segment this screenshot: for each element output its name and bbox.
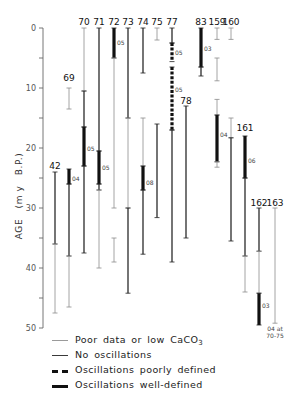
site-column-70: 7005 bbox=[78, 17, 95, 253]
legend-label: No oscillations bbox=[75, 349, 152, 360]
site-label: 161 bbox=[236, 123, 253, 133]
period-label: 05 bbox=[175, 49, 183, 56]
site-label: 42 bbox=[49, 161, 60, 171]
site-column-42: 42 bbox=[49, 161, 60, 313]
period-label: 06 bbox=[248, 157, 256, 164]
site-column-159: 15904 bbox=[208, 17, 227, 167]
y-tick-label: 30 bbox=[26, 204, 36, 213]
period-label: 05 bbox=[117, 39, 125, 46]
y-tick-label: 40 bbox=[26, 264, 36, 273]
legend-swatch-medium-line bbox=[52, 355, 68, 356]
site-column-77: 770505 bbox=[166, 17, 183, 262]
site-column-162: 16203 bbox=[250, 198, 269, 325]
site-label: 75 bbox=[151, 17, 162, 27]
site-column-69: 6904 bbox=[63, 73, 80, 307]
period-label: 04 bbox=[220, 131, 228, 138]
site-column-163: 16304 at70-75 bbox=[266, 198, 284, 339]
site-column-78: 78 bbox=[180, 96, 192, 238]
site-label: 78 bbox=[180, 96, 192, 106]
site-columns: 4269047005710572057374087577050578830315… bbox=[49, 17, 284, 339]
site-label: 69 bbox=[63, 73, 75, 83]
legend-swatch-thin-line bbox=[52, 340, 68, 341]
legend-swatch-dashed-line bbox=[52, 370, 68, 373]
period-label: 04 bbox=[72, 175, 80, 182]
period-label: 08 bbox=[146, 179, 154, 186]
site-label: 160 bbox=[222, 17, 239, 27]
site-label: 70 bbox=[78, 17, 90, 27]
site-label: 72 bbox=[108, 17, 119, 27]
period-label: 05 bbox=[175, 86, 183, 93]
y-tick-label: 20 bbox=[26, 144, 36, 153]
period-label: 03 bbox=[204, 45, 212, 52]
legend-label: Oscillations well-defined bbox=[75, 379, 203, 390]
site-label: 77 bbox=[166, 17, 177, 27]
y-tick-label: 10 bbox=[26, 84, 36, 93]
site-column-73: 73 bbox=[122, 17, 133, 293]
period-label: 05 bbox=[102, 164, 110, 171]
legend-label: Poor data or low CaCO3 bbox=[75, 334, 203, 347]
y-tick-label: 50 bbox=[26, 324, 36, 333]
legend-label: Oscillations poorly defined bbox=[75, 364, 216, 375]
site-column-72: 7205 bbox=[108, 17, 125, 262]
site-label: 162 bbox=[250, 198, 267, 208]
legend-swatch-thick-line bbox=[52, 385, 68, 388]
site-column-75: 75 bbox=[151, 17, 162, 218]
site-label: 71 bbox=[93, 17, 104, 27]
y-tick-label: 0 bbox=[31, 24, 36, 33]
y-axis-title: AGE (m y B.P.) bbox=[14, 153, 24, 240]
site-label: 83 bbox=[195, 17, 206, 27]
site-label: 163 bbox=[266, 198, 283, 208]
site-column-71: 7105 bbox=[93, 17, 110, 268]
site-annotation: 04 at bbox=[267, 325, 283, 332]
site-label: 74 bbox=[137, 17, 149, 27]
site-annotation: 70-75 bbox=[266, 332, 284, 339]
period-label: 05 bbox=[87, 145, 95, 152]
y-axis: 01020304050 bbox=[26, 24, 43, 333]
site-label: 73 bbox=[122, 17, 133, 27]
period-label: 03 bbox=[262, 302, 270, 309]
site-column-74: 7408 bbox=[137, 17, 154, 254]
